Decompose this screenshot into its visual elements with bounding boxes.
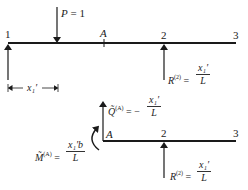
node-label-3: 3 (233, 30, 239, 41)
node-label-2-bottom: 2 (161, 128, 167, 139)
moment-equals: = (54, 152, 60, 163)
node-label-a: A (100, 28, 107, 39)
fraction-denominator: L (73, 152, 79, 163)
fraction-numerator: x₁′b (66, 140, 85, 152)
reaction-fraction-bottom: x₁′ L (197, 160, 211, 183)
shear-label: Q̃(A) = − (108, 105, 140, 117)
reaction-superscript: (2) (174, 74, 181, 80)
influence-line-diagram: 1 A 2 3 P = 1 x₁′ R(2) = x₁′ L A 2 3 Q̃(… (0, 0, 248, 190)
fraction-numerator: x₁′ (197, 160, 211, 172)
shear-superscript: (A) (115, 105, 123, 111)
dimension-label: x₁′ (27, 83, 37, 93)
node-label-3-bottom: 3 (233, 128, 239, 139)
node-label-1: 1 (5, 29, 11, 40)
node-label-2: 2 (161, 30, 167, 41)
reaction-fraction-top: x₁′ L (196, 63, 210, 86)
moment-label: M̃(A) = (35, 151, 60, 163)
shear-equals: = − (126, 106, 140, 117)
reaction-equals: = (184, 75, 190, 86)
load-value: = 1 (70, 7, 84, 19)
moment-fraction: x₁′b L (66, 140, 85, 163)
moment-superscript: (A) (43, 151, 51, 157)
fraction-denominator: L (201, 172, 207, 183)
moment-arc (92, 128, 99, 150)
reaction-superscript: (2) (176, 170, 183, 176)
fraction-denominator: L (151, 107, 157, 118)
fraction-denominator: L (200, 75, 206, 86)
load-label: P = 1 (61, 8, 85, 19)
load-symbol: P (61, 7, 68, 19)
fraction-numerator: x₁′ (147, 95, 161, 107)
reaction-label-top: R(2) = (168, 74, 189, 86)
fraction-numerator: x₁′ (196, 63, 210, 75)
node-label-a-bottom: A (106, 129, 113, 140)
reaction-equals: = (186, 171, 192, 182)
shear-fraction: x₁′ L (147, 95, 161, 118)
reaction-label-bottom: R(2) = (170, 170, 191, 182)
